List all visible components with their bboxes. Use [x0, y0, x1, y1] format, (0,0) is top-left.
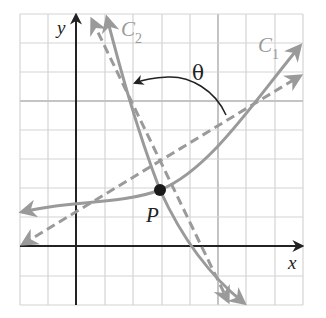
intersecting-curves-diagram: y x P θ C2 C1	[0, 0, 326, 318]
angle-theta-arc	[135, 77, 226, 115]
angle-theta-label: θ	[192, 61, 204, 85]
y-axis-label: y	[55, 17, 66, 38]
curve-c2-label: C2	[121, 17, 142, 46]
curve-c1-label: C1	[258, 33, 279, 62]
x-axis-label: x	[287, 252, 297, 273]
curve-c2	[107, 18, 244, 303]
point-p-dot	[154, 184, 166, 196]
point-p-label: P	[145, 203, 159, 227]
